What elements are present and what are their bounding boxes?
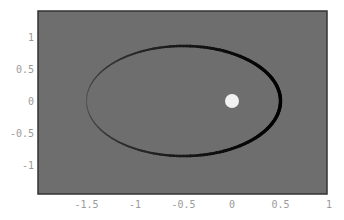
x-tick-label: -0.5 [171, 199, 195, 210]
x-tick-label: -1.5 [74, 199, 98, 210]
plot-area [38, 11, 327, 194]
x-tick-label: 0 [229, 199, 235, 210]
y-tick-label: -0.5 [10, 128, 34, 139]
y-axis-ticks: 10.50-0.5-1 [10, 32, 34, 171]
y-tick-label: 0.5 [16, 64, 34, 75]
y-tick-label: 0 [28, 96, 34, 107]
data-point [225, 94, 239, 108]
x-axis-ticks: -1.5-1-0.500.51 [74, 199, 332, 210]
x-tick-label: 0.5 [271, 199, 289, 210]
x-tick-label: 1 [326, 199, 332, 210]
point-marker [225, 94, 239, 108]
chart: -1.5-1-0.500.51 10.50-0.5-1 [0, 0, 344, 220]
y-tick-label: 1 [28, 32, 34, 43]
y-tick-label: -1 [22, 160, 34, 171]
x-tick-label: -1 [129, 199, 141, 210]
